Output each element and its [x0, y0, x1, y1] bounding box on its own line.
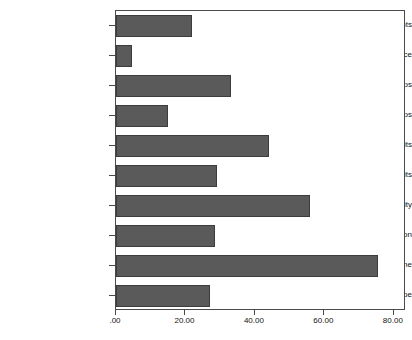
x-axis-tick-label: 80.00	[383, 316, 403, 325]
x-axis-tick-label: 60.00	[313, 316, 333, 325]
bar-row	[116, 191, 404, 221]
x-axis-tick-label: 40.00	[244, 316, 264, 325]
x-axis-tick	[184, 310, 185, 315]
bar	[116, 135, 269, 157]
value-axis: .0020.0040.0060.0080.00	[115, 310, 405, 338]
bar-row	[116, 71, 404, 101]
bar-row	[116, 101, 404, 131]
bar	[116, 15, 192, 37]
x-axis-tick	[323, 310, 324, 315]
bar	[116, 45, 132, 67]
bar	[116, 195, 310, 217]
bar	[116, 105, 168, 127]
bar-row	[116, 11, 404, 41]
bar	[116, 75, 231, 97]
x-axis-tick	[393, 310, 394, 315]
x-axis-tick	[254, 310, 255, 315]
bar-chart: Campaign ComplaintsCampaign AdviceUnhelp…	[0, 0, 412, 340]
bar-row	[116, 251, 404, 281]
bar	[116, 255, 378, 277]
bar	[116, 165, 217, 187]
bar-row	[116, 41, 404, 71]
bar	[116, 285, 210, 307]
plot-area	[115, 10, 405, 310]
x-axis-tick-label: 20.00	[174, 316, 194, 325]
x-axis-tick	[115, 310, 116, 315]
bar-row	[116, 161, 404, 191]
bar-row	[116, 281, 404, 311]
bar	[116, 225, 215, 247]
x-axis-tick-label: .00	[109, 316, 120, 325]
bar-row	[116, 221, 404, 251]
bar-row	[116, 131, 404, 161]
